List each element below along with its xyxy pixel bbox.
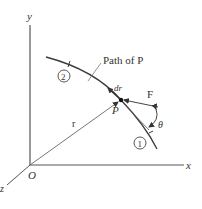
- y-axis-label: y: [26, 10, 32, 22]
- point-p: [119, 98, 123, 102]
- tangent-line: [124, 104, 149, 130]
- marker-2-label: 2: [61, 72, 66, 82]
- diagram-svg: y x z O Path of P 2 1 r dr F P θ: [0, 0, 202, 209]
- point-p-label: P: [111, 104, 119, 116]
- origin-label: O: [28, 169, 36, 181]
- marker-2: 2: [58, 70, 70, 82]
- theta-arc: [149, 109, 157, 127]
- x-axis-label: x: [185, 159, 191, 171]
- theta-label: θ: [158, 119, 163, 130]
- force-vector-f: [124, 100, 158, 107]
- position-vector-label: r: [72, 118, 76, 129]
- z-axis-label: z: [0, 183, 4, 194]
- displacement-label: dr: [114, 83, 123, 93]
- force-label: F: [147, 88, 153, 100]
- marker-1-label: 1: [138, 139, 143, 149]
- marker-1: 1: [134, 137, 146, 149]
- z-axis: [7, 165, 30, 185]
- path-label: Path of P: [103, 54, 143, 66]
- coordinate-axes: [7, 25, 184, 185]
- path-tick-1: [149, 131, 153, 133]
- work-diagram: y x z O Path of P 2 1 r dr F P θ: [0, 0, 202, 209]
- path-label-leader: [88, 63, 101, 81]
- position-vector-r: [30, 102, 118, 165]
